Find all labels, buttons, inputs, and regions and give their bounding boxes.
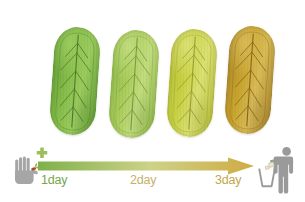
litter-glyph [265,162,274,169]
pad-rim [223,25,276,136]
figure-canvas: 1day 2day 3day [0,0,305,202]
sample-pad-day2 [165,28,218,139]
timeline-label-day3: 3day [215,173,241,187]
sample-pad-day1 [107,29,160,140]
bin-glyph [259,169,275,187]
sample-pad-row [0,0,305,150]
person-throwing-litter-bin-icon [256,146,300,194]
hand-glyph [15,157,38,184]
dispose-waste-glyph [256,146,300,194]
timeline-label-day1: 1day [41,173,67,187]
timeline-label-day2: 2day [130,173,156,187]
person-glyph [270,147,293,194]
pad-rim [165,28,218,139]
sample-pad-day0 [48,26,101,137]
pad-rim [107,29,160,140]
sample-pad-day3 [223,25,276,136]
degradation-timeline: 1day 2day 3day [0,146,305,202]
pad-rim [48,26,101,137]
